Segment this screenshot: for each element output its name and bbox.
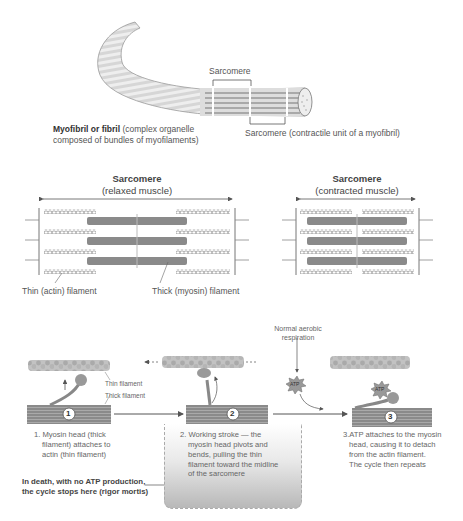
step-3-line: The cycle then repeats [343,460,442,470]
respiration-line1: Normal aerobic [268,325,328,334]
step-3-number: 3 [388,412,392,421]
step-2-line: of the sarcomere [180,469,278,479]
respiration-label: Normal aerobic respiration [268,325,328,343]
step-1-number: 1 [66,409,70,418]
contracted-subtitle: (contracted muscle) [307,185,407,197]
thin-filament-label: Thin filament [105,380,142,388]
step-2-number: 2 [230,409,234,418]
rigor-mortis-note: In death, with no ATP production, the cy… [22,477,148,497]
step-3-line: head, causing it to detach [343,440,442,450]
step-1-line: filament) attaches to [34,440,110,450]
step-1-line: actin (thin filament) [34,450,110,460]
relaxed-sarcomere-title: Sarcomere (relaxed muscle) [87,173,187,197]
respiration-line2: respiration [268,334,328,343]
step-2-line: myosin head pivots and [180,440,278,450]
thick-myosin-filament-label: Thick (myosin) filament [152,286,239,296]
step-2-line: bends, pulling the thin [180,450,278,460]
myofibril-illustration [98,22,312,124]
thick-filament-label: Thick filament [105,392,145,400]
relaxed-sarcomere-illustration [25,199,249,283]
step-1-line: 1. Myosin head (thick [34,430,110,440]
myofibril-label-rest: (complex organelle [120,124,194,134]
relaxed-subtitle: (relaxed muscle) [87,185,187,197]
contracted-title: Sarcomere [307,173,407,185]
step-1-description: 1. Myosin head (thick filament) attaches… [34,430,110,460]
step-3-description: 3.ATP attaches to the myosin head, causi… [343,430,442,469]
step-2-line: 2. Working stroke — the [180,430,278,440]
relaxed-title: Sarcomere [87,173,187,185]
atp-label-right: ATP [375,386,384,392]
sarcomere-top-label: Sarcomere [209,66,251,76]
contracted-sarcomere-title: Sarcomere (contracted muscle) [307,173,407,197]
step-2-line: filament toward the midline [180,460,278,470]
sarcomere-bottom-label: Sarcomere (contractile unit of a myofibr… [245,128,400,138]
step-3-line: from the actin filament. [343,450,442,460]
myofibril-label-line2: composed of bundles of myofilaments) [53,135,199,145]
contracted-sarcomere-illustration [282,199,433,275]
myofibril-label-bold: Myofibril or fibril [53,124,120,134]
rigor-line1: In death, with no ATP production, [22,477,148,487]
thin-actin-filament-label: Thin (actin) filament [22,286,97,296]
step-2-description: 2. Working stroke — the myosin head pivo… [180,430,278,479]
step-3-line: 3.ATP attaches to the myosin [343,430,442,440]
atp-label-left: ATP [290,381,299,387]
rigor-line2: the cycle stops here (rigor mortis) [22,487,148,497]
myofibril-label: Myofibril or fibril (complex organelle c… [53,124,199,145]
